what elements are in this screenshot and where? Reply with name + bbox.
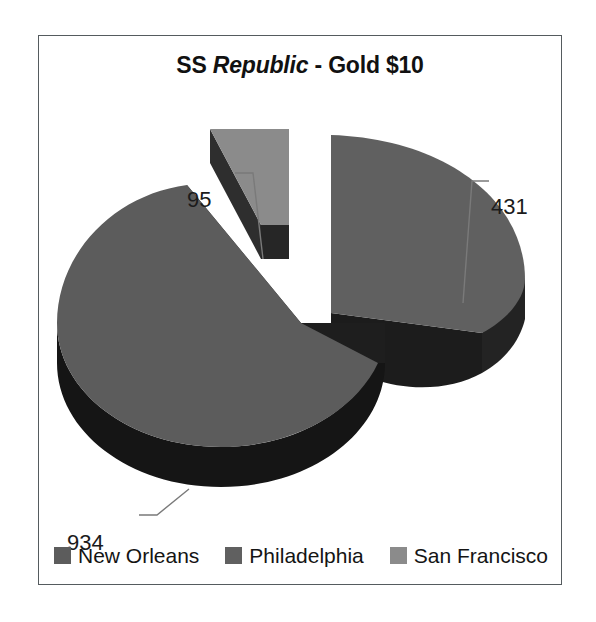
legend-swatch-san-francisco: [390, 547, 407, 564]
chart-legend: New Orleans Philadelphia San Francisco: [39, 545, 563, 566]
pie-chart-graphic: [39, 91, 563, 521]
chart-title-italic-word: Republic: [213, 52, 309, 78]
legend-label-philadelphia: Philadelphia: [249, 545, 363, 566]
leader-line-new-orleans: [139, 489, 189, 515]
legend-swatch-new-orleans: [54, 547, 71, 564]
chart-title-prefix: SS: [176, 52, 212, 78]
legend-label-san-francisco: San Francisco: [414, 545, 548, 566]
data-label-philadelphia: 431: [491, 194, 528, 220]
plot-area: 95 431 934: [39, 91, 563, 521]
legend-swatch-philadelphia: [225, 547, 242, 564]
chart-frame: SS Republic - Gold $10: [38, 35, 562, 585]
legend-item-san-francisco[interactable]: San Francisco: [390, 545, 548, 566]
legend-item-philadelphia[interactable]: Philadelphia: [225, 545, 363, 566]
data-label-san-francisco: 95: [187, 187, 211, 213]
chart-title: SS Republic - Gold $10: [39, 52, 561, 79]
pie-slice-san-francisco-front: [261, 225, 289, 259]
legend-label-new-orleans: New Orleans: [78, 545, 199, 566]
legend-item-new-orleans[interactable]: New Orleans: [54, 545, 199, 566]
pie-slice-philadelphia-top: [331, 135, 525, 333]
chart-title-suffix: - Gold $10: [308, 52, 423, 78]
pie-slice-new-orleans-top: [57, 185, 378, 447]
